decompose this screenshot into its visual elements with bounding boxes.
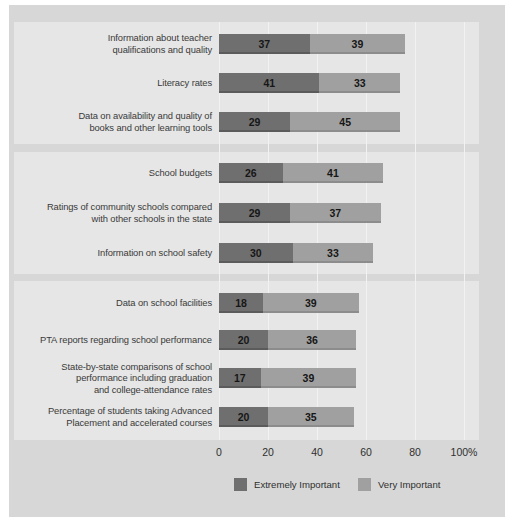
stacked-bar: 2937 — [219, 203, 381, 223]
bar-value-extremely-important: 17 — [219, 368, 261, 388]
bar-segment-extremely-important: 30 — [219, 243, 293, 263]
bar-segment-very-important: 39 — [263, 293, 359, 313]
bar-value-very-important: 39 — [310, 34, 406, 54]
stacked-bar: 3033 — [219, 243, 373, 263]
bar-value-very-important: 33 — [293, 243, 374, 263]
bar-value-very-important: 39 — [261, 368, 357, 388]
bar-segment-extremely-important: 26 — [219, 163, 283, 183]
legend-swatch-extremely-important — [234, 478, 247, 491]
bar-row: Percentage of students taking Advanced P… — [0, 407, 514, 427]
x-axis-tick-20: 20 — [262, 446, 274, 458]
bar-row: Ratings of community schools compared wi… — [0, 203, 514, 223]
bar-row-label: Data on school facilities — [116, 297, 212, 309]
legend-item-1[interactable]: Extremely Important — [234, 478, 340, 491]
bar-segment-extremely-important: 20 — [219, 407, 268, 427]
bar-row: Data on availability and quality of book… — [0, 112, 514, 132]
bar-row: Information about teacher qualifications… — [0, 34, 514, 54]
bar-value-very-important: 35 — [268, 407, 354, 427]
bar-value-extremely-important: 37 — [219, 34, 310, 54]
bar-row-label: Information about teacher qualifications… — [108, 32, 212, 55]
bar-value-very-important: 33 — [319, 73, 400, 93]
bar-value-extremely-important: 30 — [219, 243, 293, 263]
stacked-bar-chart: Information about teacher qualifications… — [0, 0, 514, 525]
bar-row: Literacy rates4133 — [0, 73, 514, 93]
legend-label: Very Important — [378, 479, 440, 490]
bar-segment-extremely-important: 41 — [219, 73, 319, 93]
x-axis-tick-0: 0 — [216, 446, 222, 458]
x-axis-tick-60: 60 — [360, 446, 372, 458]
bar-segment-very-important: 39 — [310, 34, 406, 54]
x-axis-tick-100%: 100% — [451, 446, 478, 458]
bar-row: School budgets2641 — [0, 163, 514, 183]
stacked-bar: 4133 — [219, 73, 400, 93]
bar-row-label: PTA reports regarding school performance — [40, 334, 212, 346]
bar-row-label: Percentage of students taking Advanced P… — [48, 405, 212, 428]
bar-segment-extremely-important: 20 — [219, 330, 268, 350]
stacked-bar: 2035 — [219, 407, 354, 427]
bar-value-extremely-important: 29 — [219, 203, 290, 223]
x-axis-tick-40: 40 — [311, 446, 323, 458]
bar-value-very-important: 39 — [263, 293, 359, 313]
legend-item-2[interactable]: Very Important — [358, 478, 440, 491]
bar-segment-very-important: 37 — [290, 203, 381, 223]
stacked-bar: 2945 — [219, 112, 400, 132]
x-axis: 020406080100% — [0, 446, 514, 462]
bar-value-extremely-important: 41 — [219, 73, 319, 93]
bar-value-very-important: 41 — [283, 163, 383, 183]
bar-segment-extremely-important: 29 — [219, 112, 290, 132]
bar-row-label: State-by-state comparisons of school per… — [61, 361, 212, 396]
bar-segment-very-important: 33 — [293, 243, 374, 263]
x-axis-tick-80: 80 — [409, 446, 421, 458]
stacked-bar: 1839 — [219, 293, 359, 313]
bar-row: Data on school facilities1839 — [0, 293, 514, 313]
chart-legend: Extremely ImportantVery Important — [0, 478, 514, 496]
bar-segment-very-important: 33 — [319, 73, 400, 93]
bar-segment-extremely-important: 29 — [219, 203, 290, 223]
legend-swatch-very-important — [358, 478, 371, 491]
bar-value-extremely-important: 18 — [219, 293, 263, 313]
bar-row-label: Information on school safety — [98, 247, 212, 259]
bar-value-very-important: 45 — [290, 112, 400, 132]
bar-segment-very-important: 39 — [261, 368, 357, 388]
bar-row: PTA reports regarding school performance… — [0, 330, 514, 350]
bar-row-label: Ratings of community schools compared wi… — [47, 201, 212, 224]
stacked-bar: 2036 — [219, 330, 356, 350]
bar-row-label: Literacy rates — [157, 77, 212, 89]
bar-segment-very-important: 41 — [283, 163, 383, 183]
bar-value-extremely-important: 29 — [219, 112, 290, 132]
stacked-bar: 2641 — [219, 163, 383, 183]
bar-segment-very-important: 35 — [268, 407, 354, 427]
bar-row-label: School budgets — [149, 167, 212, 179]
stacked-bar: 3739 — [219, 34, 405, 54]
bar-value-very-important: 36 — [268, 330, 356, 350]
bar-value-extremely-important: 20 — [219, 407, 268, 427]
bar-value-very-important: 37 — [290, 203, 381, 223]
bar-segment-extremely-important: 37 — [219, 34, 310, 54]
bar-row: Information on school safety3033 — [0, 243, 514, 263]
bar-row: State-by-state comparisons of school per… — [0, 368, 514, 388]
bar-segment-very-important: 36 — [268, 330, 356, 350]
bar-segment-extremely-important: 17 — [219, 368, 261, 388]
bar-segment-extremely-important: 18 — [219, 293, 263, 313]
bar-row-label: Data on availability and quality of book… — [78, 110, 212, 133]
bar-value-extremely-important: 26 — [219, 163, 283, 183]
legend-label: Extremely Important — [254, 479, 340, 490]
bar-segment-very-important: 45 — [290, 112, 400, 132]
bar-value-extremely-important: 20 — [219, 330, 268, 350]
stacked-bar: 1739 — [219, 368, 356, 388]
